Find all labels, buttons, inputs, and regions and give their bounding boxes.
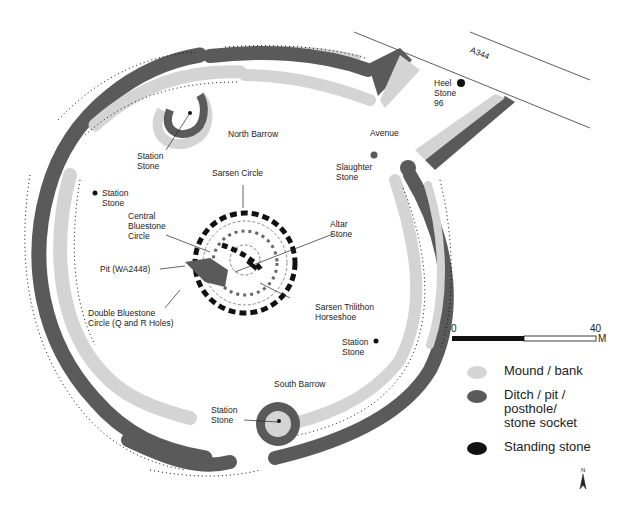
standing-stone-swatch-icon: [467, 442, 487, 455]
label-north-barrow: North Barrow: [228, 129, 278, 139]
leader-lines: [160, 113, 333, 422]
north-label: N: [581, 465, 585, 475]
legend-label: Ditch / pit / posthole/ stone socket: [504, 388, 577, 430]
station-stone-w: [93, 191, 98, 196]
north-barrow: [158, 95, 208, 144]
label-sarsen-trilithon: Sarsen Trilithon Horseshoe: [315, 302, 374, 322]
label-central-bluestone-circle: Central Bluestone Circle: [128, 211, 166, 241]
label-station-stone-s: Station Stone: [211, 405, 237, 425]
heel-stone: [457, 79, 465, 87]
north-arrow-icon: [580, 474, 586, 489]
label-double-bluestone-circle: Double Bluestone Circle (Q and R Holes): [88, 308, 174, 328]
label-slaughter-stone: Slaughter Stone: [336, 162, 372, 182]
pit-wa2448: [185, 258, 228, 287]
label-station-stone-se: Station Stone: [342, 337, 368, 357]
label-station-stone-w: Station Stone: [102, 188, 128, 208]
avenue-earthworks: [368, 48, 515, 170]
legend-item-standing-stone: Standing stone: [467, 440, 591, 455]
legend-label: Standing stone: [504, 440, 591, 454]
mound-swatch-icon: [467, 366, 487, 379]
site-plan-map: [0, 0, 636, 514]
central-monument: [185, 213, 295, 313]
scale-start: 0: [451, 323, 457, 334]
scale-unit: M: [598, 333, 606, 344]
legend-label: Mound / bank: [504, 364, 583, 378]
legend-item-ditch: Ditch / pit / posthole/ stone socket: [467, 388, 577, 430]
legend-item-mound: Mound / bank: [467, 364, 583, 379]
label-altar-stone: Altar Stone: [330, 219, 352, 239]
label-heel-stone: Heel Stone 96: [434, 78, 456, 108]
slaughter-stone: [371, 152, 378, 159]
label-station-stone-nw: Station Stone: [137, 151, 163, 171]
label-south-barrow: South Barrow: [274, 379, 326, 389]
station-stone-se: [374, 339, 379, 344]
south-barrow: [256, 402, 300, 446]
label-sarsen-circle: Sarsen Circle: [212, 168, 263, 178]
scale-bar: [452, 336, 596, 341]
label-avenue: Avenue: [370, 128, 399, 138]
ditch-swatch-icon: [467, 390, 487, 403]
label-pit: Pit (WA2448): [100, 264, 150, 274]
